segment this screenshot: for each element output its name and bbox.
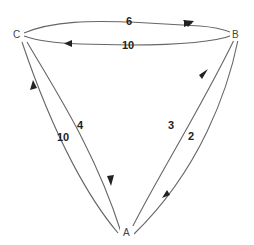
edge-a-to-b: 3 xyxy=(130,40,234,232)
node-b: B xyxy=(230,28,244,41)
graph-canvas: 6 10 10 4 3 2 xyxy=(0,0,254,245)
edge-b-to-c: 10 xyxy=(24,35,233,51)
edge-a-to-c: 10 xyxy=(22,42,118,233)
edge-label-b-a: 2 xyxy=(188,130,194,142)
node-label-b: B xyxy=(232,29,239,40)
edge-label-a-b: 3 xyxy=(168,119,174,131)
edge-c-to-a: 4 xyxy=(27,42,121,232)
edge-label-a-c: 10 xyxy=(57,131,69,143)
node-a: A xyxy=(120,226,134,239)
edge-label-c-a: 4 xyxy=(77,119,84,131)
edge-label-c-b: 6 xyxy=(126,15,132,27)
graph-diagram: 6 10 10 4 3 2 xyxy=(0,0,254,245)
edge-label-b-c: 10 xyxy=(122,39,134,51)
node-c: C xyxy=(10,28,24,41)
edge-c-to-b: 6 xyxy=(24,15,233,33)
node-label-c: C xyxy=(13,29,20,40)
edge-b-to-a: 2 xyxy=(134,40,238,234)
node-label-a: A xyxy=(123,227,130,238)
